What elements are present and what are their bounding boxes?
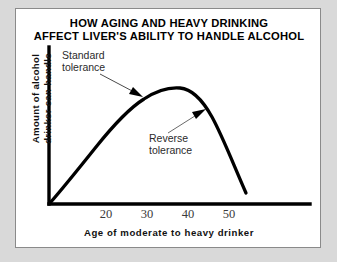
annotation-standard-tolerance: Standard tolerance	[62, 49, 105, 73]
x-tick-label-20: 20	[91, 207, 121, 222]
reverse-tolerance-leader	[168, 114, 198, 133]
figure-canvas: HOW AGING AND HEAVY DRINKING AFFECT LIVE…	[0, 0, 337, 262]
standard-tolerance-leader	[100, 74, 136, 93]
data-curve	[50, 88, 246, 203]
x-axis-label: Age of moderate to heavy drinker	[16, 227, 322, 238]
x-tick-label-30: 30	[132, 207, 162, 222]
x-tick-label-50: 50	[214, 207, 244, 222]
standard-tolerance-arrowhead	[129, 87, 143, 97]
y-axis-label: Amount of alcohol drinker can handle	[30, 29, 53, 169]
annotation-reverse-tolerance: Reverse tolerance	[149, 132, 192, 156]
x-tick-label-40: 40	[173, 207, 203, 222]
reverse-tolerance-arrowhead	[192, 109, 206, 119]
chart-frame: HOW AGING AND HEAVY DRINKING AFFECT LIVE…	[15, 8, 321, 248]
plot-area	[16, 9, 322, 249]
